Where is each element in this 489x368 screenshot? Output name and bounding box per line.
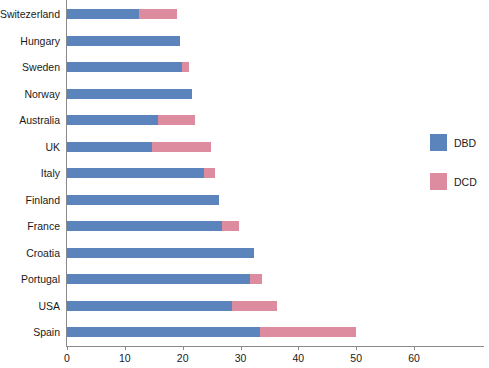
category-label: USA <box>38 300 60 312</box>
bar-segment-dbd <box>67 168 204 178</box>
bar-segment-dbd <box>67 274 250 284</box>
bar-row: France <box>0 214 489 239</box>
bar-row: Norway <box>0 82 489 107</box>
legend-swatch-dbd <box>430 134 447 151</box>
bar-segment-dcd <box>204 168 215 178</box>
x-tick <box>125 346 126 350</box>
x-tick <box>414 346 415 350</box>
x-tick <box>183 346 184 350</box>
bar-segment-dcd <box>232 301 277 311</box>
bar-row: Hungary <box>0 29 489 54</box>
legend-label: DCD <box>454 176 477 188</box>
category-label: Portugal <box>21 273 60 285</box>
stacked-bar <box>67 142 211 152</box>
bar-segment-dbd <box>67 9 139 19</box>
category-label: Sweden <box>22 61 60 73</box>
bar-row: Switezerland <box>0 2 489 27</box>
category-label: Finland <box>26 194 60 206</box>
stacked-bar <box>67 221 239 231</box>
stacked-bar <box>67 62 189 72</box>
bar-row: Croatia <box>0 241 489 266</box>
category-label: Italy <box>41 167 60 179</box>
stacked-bar <box>67 274 262 284</box>
x-tick-label: 60 <box>408 352 420 364</box>
legend-item: DBD <box>430 134 477 151</box>
bar-segment-dcd <box>182 62 190 72</box>
bar-row: Italy <box>0 161 489 186</box>
bar-segment-dcd <box>158 115 194 125</box>
stacked-bar <box>67 301 277 311</box>
bar-segment-dbd <box>67 221 222 231</box>
legend-item: DCD <box>430 173 477 190</box>
x-tick-label: 50 <box>350 352 362 364</box>
bar-segment-dbd <box>67 195 219 205</box>
bar-segment-dbd <box>67 301 232 311</box>
bar-segment-dcd <box>139 9 177 19</box>
stacked-bar <box>67 115 195 125</box>
stacked-bar <box>67 168 215 178</box>
bar-segment-dbd <box>67 327 260 337</box>
category-label: Switezerland <box>0 8 60 20</box>
category-label: Spain <box>33 326 60 338</box>
x-tick-label: 20 <box>177 352 189 364</box>
bar-segment-dcd <box>260 327 356 337</box>
chart-legend: DBDDCD <box>430 134 477 212</box>
stacked-bar <box>67 248 254 258</box>
bar-row: USA <box>0 294 489 319</box>
bar-row: Sweden <box>0 55 489 80</box>
category-label: Norway <box>24 88 60 100</box>
x-tick <box>356 346 357 350</box>
legend-swatch-dcd <box>430 173 447 190</box>
stacked-bar <box>67 195 219 205</box>
x-tick-label: 40 <box>292 352 304 364</box>
bar-row: Australia <box>0 108 489 133</box>
x-tick-label: 10 <box>119 352 131 364</box>
category-label: Australia <box>19 114 60 126</box>
x-axis-line <box>66 346 484 347</box>
legend-label: DBD <box>454 137 476 149</box>
category-label: Croatia <box>26 247 60 259</box>
bar-segment-dbd <box>67 89 192 99</box>
stacked-bar <box>67 327 356 337</box>
bar-segment-dbd <box>67 248 254 258</box>
bar-row: Finland <box>0 188 489 213</box>
x-tick <box>67 346 68 350</box>
x-tick <box>241 346 242 350</box>
category-label: UK <box>45 141 60 153</box>
bar-segment-dbd <box>67 62 182 72</box>
bar-chart: SwitezerlandHungarySwedenNorwayAustralia… <box>0 0 489 368</box>
bar-segment-dbd <box>67 36 180 46</box>
bar-row: Spain <box>0 320 489 345</box>
stacked-bar <box>67 89 192 99</box>
stacked-bar <box>67 36 180 46</box>
bar-row: Portugal <box>0 267 489 292</box>
bar-segment-dcd <box>222 221 239 231</box>
x-tick <box>298 346 299 350</box>
bar-segment-dcd <box>152 142 211 152</box>
bar-segment-dbd <box>67 142 152 152</box>
category-label: Hungary <box>20 35 60 47</box>
bar-row: UK <box>0 135 489 160</box>
bar-segment-dbd <box>67 115 158 125</box>
x-tick-label: 30 <box>235 352 247 364</box>
bar-segment-dcd <box>250 274 262 284</box>
category-label: France <box>27 220 60 232</box>
x-tick-label: 0 <box>64 352 70 364</box>
stacked-bar <box>67 9 177 19</box>
